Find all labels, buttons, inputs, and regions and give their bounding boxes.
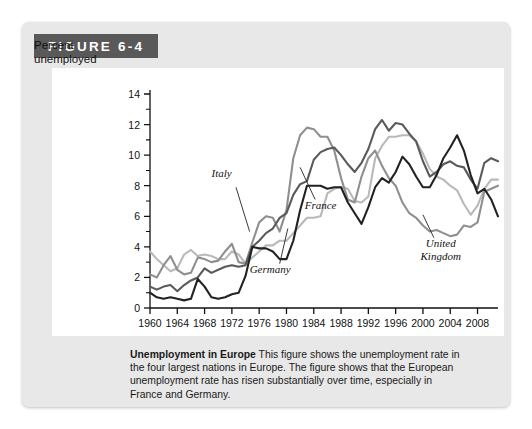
y-axis-title-line2: unemployed [34,53,97,65]
figure-container: FIGURE 6-4 02468101214196019641968197219… [22,22,510,407]
svg-text:1972: 1972 [220,317,244,329]
svg-text:2004: 2004 [439,317,463,329]
svg-text:1988: 1988 [329,317,353,329]
y-axis-title-line1: Percent [34,39,74,51]
svg-text:1984: 1984 [302,317,326,329]
chart-tick-labels: 0246810121419601964196819721976198019841… [128,88,498,336]
svg-text:4: 4 [134,241,140,253]
svg-text:1980: 1980 [275,317,299,329]
svg-text:1968: 1968 [193,317,217,329]
svg-text:8: 8 [134,180,140,192]
svg-text:1960: 1960 [138,317,162,329]
chart-plot-panel: 0246810121419601964196819721976198019841… [52,68,504,336]
svg-text:6: 6 [134,210,140,222]
svg-text:2: 2 [134,271,140,283]
svg-text:12: 12 [128,119,140,131]
svg-text:1992: 1992 [357,317,381,329]
svg-text:Germany: Germany [250,263,291,275]
caption-title: Unemployment in Europe [130,349,256,360]
svg-text:UnitedKingdom: UnitedKingdom [420,237,461,262]
svg-text:0: 0 [134,302,140,314]
svg-text:France: France [304,199,337,211]
figure-caption: Unemployment in Europe This figure shows… [130,348,460,407]
y-axis-title: Percent unemployed [34,39,119,66]
svg-text:14: 14 [128,88,140,100]
svg-text:1996: 1996 [384,317,408,329]
svg-text:10: 10 [128,149,140,161]
svg-text:1964: 1964 [166,317,190,329]
svg-text:Italy: Italy [211,167,232,179]
svg-text:2008: 2008 [466,317,490,329]
svg-text:2000: 2000 [411,317,435,329]
unemployment-line-chart: 0246810121419601964196819721976198019841… [52,68,504,336]
svg-text:1976: 1976 [247,317,271,329]
